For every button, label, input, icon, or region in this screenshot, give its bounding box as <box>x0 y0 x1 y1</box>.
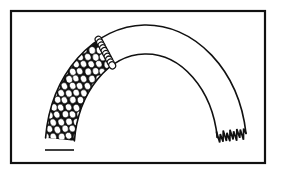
arch-illustration-svg <box>0 0 281 176</box>
page-background <box>0 0 281 176</box>
illustration-canvas <box>0 0 281 176</box>
